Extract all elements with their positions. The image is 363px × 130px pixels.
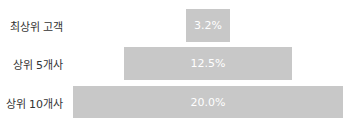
bar-top5: 12.5% <box>124 47 292 80</box>
value-label: 20.0% <box>191 96 226 109</box>
funnel-row-top5: 상위 5개사 12.5% <box>0 47 363 80</box>
bar-top10: 20.0% <box>73 86 343 118</box>
bar-top-customer: 3.2% <box>186 9 230 42</box>
funnel-row-top10: 상위 10개사 20.0% <box>0 86 363 118</box>
category-label: 상위 10개사 <box>6 95 64 111</box>
value-label: 12.5% <box>191 57 226 70</box>
category-label: 상위 5개사 <box>13 56 64 72</box>
value-label: 3.2% <box>194 19 222 32</box>
funnel-row-top-customer: 최상위 고객 3.2% <box>0 9 363 42</box>
category-label: 최상위 고객 <box>10 18 64 34</box>
